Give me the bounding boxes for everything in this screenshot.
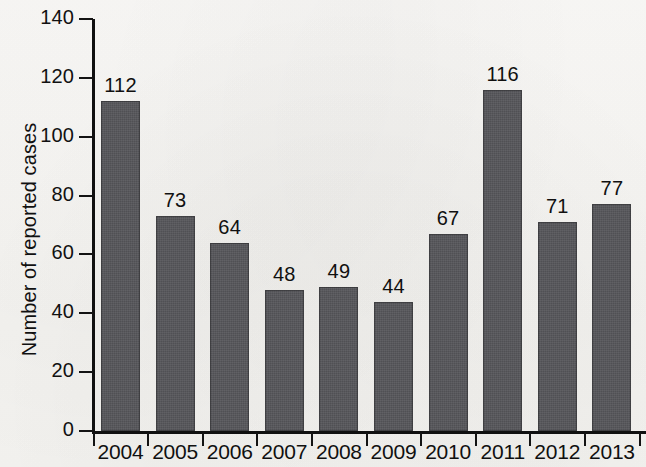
bar-value-label: 77 xyxy=(579,177,644,200)
x-axis-label: 2004 xyxy=(89,440,152,464)
y-axis-tick xyxy=(79,195,93,197)
y-axis-tick xyxy=(79,18,93,20)
y-axis-tick-label: 100 xyxy=(0,124,74,147)
bar-value-label: 116 xyxy=(470,63,535,86)
y-axis-title: Number of reported cases xyxy=(18,110,41,370)
bar xyxy=(483,90,522,431)
y-axis-tick-label: 80 xyxy=(0,183,74,206)
y-axis-tick xyxy=(79,312,93,314)
bar xyxy=(156,216,195,431)
y-axis-tick-label: 40 xyxy=(0,300,74,323)
bar xyxy=(265,290,304,431)
bar xyxy=(429,234,468,431)
bar xyxy=(101,101,140,431)
bar xyxy=(319,287,358,431)
bar xyxy=(592,204,631,431)
x-axis-label: 2012 xyxy=(526,440,589,464)
y-axis-tick-label: 140 xyxy=(0,6,74,29)
y-axis-tick xyxy=(79,371,93,373)
x-axis-label: 2009 xyxy=(362,440,425,464)
x-axis-label: 2005 xyxy=(144,440,207,464)
y-axis-tick-label: 120 xyxy=(0,65,74,88)
y-axis-tick xyxy=(79,253,93,255)
x-axis-label: 2010 xyxy=(417,440,480,464)
x-axis-label: 2011 xyxy=(471,440,534,464)
bar xyxy=(538,222,577,431)
bar-value-label: 67 xyxy=(416,207,481,230)
bar-value-label: 44 xyxy=(361,275,426,298)
bar-value-label: 73 xyxy=(143,189,208,212)
bar xyxy=(210,243,249,431)
plot-area: Number of reported cases 020406080100120… xyxy=(0,0,646,467)
y-axis-tick xyxy=(79,430,93,432)
x-axis-label: 2008 xyxy=(307,440,370,464)
bar-value-label: 64 xyxy=(197,216,262,239)
bar-chart-figure: Number of reported cases 020406080100120… xyxy=(0,0,646,467)
y-axis-tick-label: 0 xyxy=(0,418,74,441)
bar-value-label: 112 xyxy=(88,74,153,97)
y-axis-tick xyxy=(79,136,93,138)
bar xyxy=(374,302,413,431)
x-axis-label: 2006 xyxy=(198,440,261,464)
x-axis-label: 2013 xyxy=(580,440,643,464)
x-axis-label: 2007 xyxy=(253,440,316,464)
x-axis-line xyxy=(92,431,646,434)
y-axis-tick-label: 60 xyxy=(0,241,74,264)
y-axis-tick-label: 20 xyxy=(0,359,74,382)
